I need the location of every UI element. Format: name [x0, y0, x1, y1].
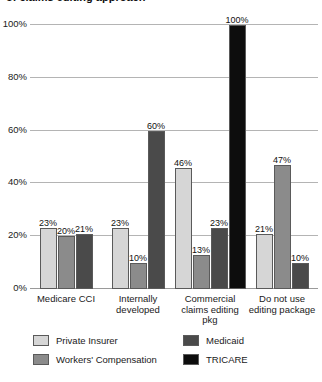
bar-group: 23%10%60%	[102, 25, 174, 289]
legend-item[interactable]: Workers' Compensation	[33, 354, 157, 365]
bar-value-label: 13%	[192, 246, 210, 255]
bar[interactable]: 10%	[130, 263, 147, 289]
chart-title-cropped: of claims editing approach	[6, 0, 186, 9]
bar-value-label: 100%	[225, 16, 248, 25]
plot-area: 0%20%40%60%80%100% 23%20%21%23%10%60%46%…	[30, 25, 318, 289]
x-axis-labels: Medicare CCIInternally developedCommerci…	[30, 294, 318, 326]
legend-swatch	[183, 354, 199, 365]
x-axis-category-label: Do not use editing package	[246, 294, 318, 326]
bar-value-label: 60%	[147, 122, 165, 131]
legend-item[interactable]: Private Insurer	[33, 335, 118, 346]
legend-swatch	[183, 335, 199, 346]
y-axis-tick-label: 80%	[8, 72, 27, 82]
x-axis-category-label: Commercial claims editing pkg	[174, 294, 246, 326]
bar[interactable]: 23%	[112, 228, 129, 289]
chart-legend: Private InsurerWorkers' CompensationMedi…	[0, 332, 322, 380]
bar-value-label: 23%	[111, 219, 129, 228]
bar[interactable]: 23%	[211, 228, 228, 289]
bar[interactable]: 10%	[292, 263, 309, 289]
legend-item[interactable]: Medicaid	[183, 335, 244, 346]
bar-value-label: 46%	[174, 159, 192, 168]
bar[interactable]: 20%	[58, 236, 75, 289]
legend-swatch	[33, 335, 49, 346]
bar[interactable]: 47%	[274, 165, 291, 289]
legend-label: TRICARE	[206, 354, 248, 365]
y-axis-tick-label: 100%	[3, 19, 27, 29]
chart-title-text: of claims editing approach	[6, 0, 186, 2]
bar[interactable]: 60%	[148, 131, 165, 289]
bar[interactable]: 23%	[40, 228, 57, 289]
bar-groups: 23%20%21%23%10%60%46%13%23%100%21%47%10%	[30, 25, 318, 289]
y-axis-tick-label: 0%	[13, 283, 27, 293]
x-axis-category-label: Medicare CCI	[30, 294, 102, 326]
bar-value-label: 47%	[273, 156, 291, 165]
bar-chart: 0%20%40%60%80%100% 23%20%21%23%10%60%46%…	[0, 10, 322, 300]
bar-value-label: 23%	[39, 219, 57, 228]
y-axis-tick-label: 40%	[8, 178, 27, 188]
bar-value-label: 21%	[255, 225, 273, 234]
bar[interactable]: 100%	[229, 25, 246, 289]
bar-group: 46%13%23%100%	[174, 25, 246, 289]
legend-label: Private Insurer	[56, 335, 118, 346]
bar-value-label: 10%	[291, 254, 309, 263]
bar-value-label: 21%	[75, 225, 93, 234]
bar-group: 21%47%10%	[246, 25, 318, 289]
bar-value-label: 20%	[57, 227, 75, 236]
legend-item[interactable]: TRICARE	[183, 354, 248, 365]
bar-value-label: 23%	[210, 219, 228, 228]
bar[interactable]: 21%	[256, 234, 273, 289]
y-axis-tick-label: 20%	[8, 230, 27, 240]
legend-label: Workers' Compensation	[56, 354, 157, 365]
y-axis-tick-label: 60%	[8, 125, 27, 135]
legend-label: Medicaid	[206, 335, 244, 346]
bar[interactable]: 21%	[76, 234, 93, 289]
bar[interactable]: 13%	[193, 255, 210, 289]
bar-group: 23%20%21%	[30, 25, 102, 289]
bar[interactable]: 46%	[175, 168, 192, 289]
legend-swatch	[33, 354, 49, 365]
x-axis-category-label: Internally developed	[102, 294, 174, 326]
bar-value-label: 10%	[129, 254, 147, 263]
